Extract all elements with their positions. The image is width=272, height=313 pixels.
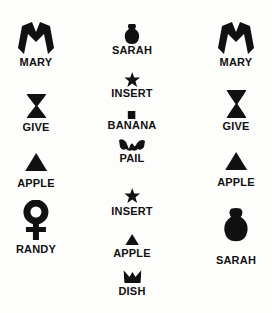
lexigram-apple-right: APPLE xyxy=(217,152,255,188)
lexigram-sarah-middle: SARAH xyxy=(112,24,152,56)
lexigram-dish-middle: DISH xyxy=(118,270,145,297)
triangle-icon xyxy=(125,234,139,245)
triangle-icon xyxy=(225,152,247,170)
lexigram-give-left: GIVE xyxy=(22,94,49,133)
crown-icon xyxy=(123,270,141,283)
blob-icon xyxy=(124,24,140,44)
label: RANDY xyxy=(16,243,56,255)
hourglass-icon xyxy=(225,90,247,118)
star-icon xyxy=(124,72,140,87)
label: PAIL xyxy=(119,152,144,164)
label: MARY xyxy=(20,56,53,68)
label: APPLE xyxy=(17,177,55,189)
lexigram-pail-middle: PAIL xyxy=(119,139,145,164)
label: SARAH xyxy=(216,254,256,266)
blob-icon xyxy=(223,205,249,245)
label: APPLE xyxy=(217,176,255,188)
lexigram-mary-right: MARY xyxy=(218,22,254,68)
label: SARAH xyxy=(112,44,152,56)
venus-symbol-icon xyxy=(22,200,50,240)
lexigram-insert-middle-2: INSERT xyxy=(111,188,153,217)
label: MARY xyxy=(220,56,253,68)
label: INSERT xyxy=(111,87,153,99)
m-shape-icon xyxy=(18,22,54,56)
hourglass-icon xyxy=(25,94,47,118)
label: INSERT xyxy=(111,205,153,217)
lexigram-randy-left: RANDY xyxy=(16,200,56,255)
square-icon xyxy=(128,111,136,119)
lexigram-apple-left: APPLE xyxy=(17,153,55,189)
lexigram-banana-middle: BANANA xyxy=(108,111,157,131)
triangle-icon xyxy=(25,153,47,171)
star-icon xyxy=(124,188,140,203)
lexigram-sarah-right: SARAH xyxy=(216,205,256,266)
lexigram-give-right: GIVE xyxy=(222,90,249,132)
lexigram-apple-middle: APPLE xyxy=(113,234,151,259)
label: GIVE xyxy=(22,121,49,133)
lexigram-mary-left: MARY xyxy=(18,22,54,68)
label: GIVE xyxy=(222,120,249,132)
wave-icon xyxy=(119,139,145,152)
label: BANANA xyxy=(108,119,157,131)
label: DISH xyxy=(118,285,145,297)
lexigram-insert-middle-1: INSERT xyxy=(111,72,153,99)
label: APPLE xyxy=(113,247,151,259)
m-shape-icon xyxy=(218,22,254,56)
